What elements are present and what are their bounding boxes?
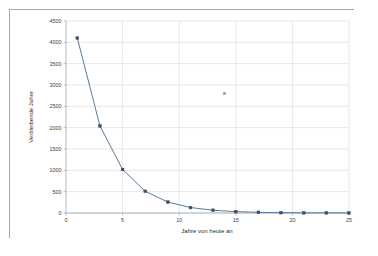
data-point-marker	[325, 212, 328, 215]
x-tick-label: 10	[176, 217, 182, 223]
y-axis-title: Verbleibende Jahre	[28, 90, 34, 142]
y-tick-label: 1000	[50, 167, 62, 173]
chart-background	[10, 10, 355, 239]
x-tick-label: 20	[289, 217, 295, 223]
y-tick-label: 500	[53, 189, 62, 195]
data-point-marker	[121, 168, 124, 171]
data-point-marker	[166, 201, 169, 204]
y-tick-label: 1500	[50, 146, 62, 152]
y-tick-label: 4000	[50, 39, 62, 45]
y-tick-label: 3500	[50, 61, 62, 67]
y-tick-label: 2500	[50, 103, 62, 109]
y-tick-label: 0	[59, 210, 62, 216]
data-point-marker	[302, 211, 305, 214]
data-point-marker	[144, 190, 147, 193]
data-point-marker	[234, 210, 237, 213]
y-tick-label: 2000	[50, 125, 62, 131]
data-point-marker	[99, 125, 102, 128]
stray-data-point-marker	[223, 92, 226, 95]
data-point-marker	[280, 211, 283, 214]
line-chart: 050010001500200025003000350040004500 051…	[10, 10, 355, 239]
chart-frame: 050010001500200025003000350040004500 051…	[9, 9, 354, 238]
x-tick-label: 15	[233, 217, 239, 223]
y-tick-label: 3000	[50, 82, 62, 88]
data-point-marker	[76, 37, 79, 40]
data-point-marker	[257, 211, 260, 214]
x-tick-label: 25	[346, 217, 352, 223]
data-point-marker	[189, 206, 192, 209]
x-tick-label: 0	[65, 217, 68, 223]
y-tick-label: 4500	[50, 18, 62, 24]
stray-marker-group	[223, 92, 226, 95]
chart-plot-area: 050010001500200025003000350040004500 051…	[10, 10, 355, 239]
data-point-marker	[348, 212, 351, 215]
x-tick-label: 5	[121, 217, 124, 223]
x-axis-title: Jahre von heute an	[181, 228, 232, 234]
data-point-marker	[212, 209, 215, 212]
